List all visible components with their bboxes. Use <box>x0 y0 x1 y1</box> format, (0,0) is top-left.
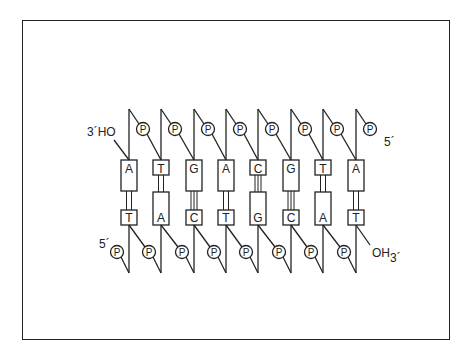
phosphate-label: P <box>146 247 153 258</box>
phosphate-label: P <box>302 124 309 135</box>
bottom-backbone-diagonal <box>153 257 161 273</box>
bottom-3prime-tail <box>356 225 370 245</box>
bottom-backbone-diagonal <box>283 257 291 273</box>
top-3prime-tail <box>114 140 129 160</box>
top-backbone-link <box>212 134 226 160</box>
bottom-backbone-link <box>291 225 307 247</box>
bottom-base-letter: A <box>157 211 165 225</box>
bottom-backbone-diagonal <box>186 257 194 273</box>
phosphate-label: P <box>114 247 121 258</box>
bottom-right-oh-label: OH <box>372 246 390 260</box>
phosphate-label: P <box>205 124 212 135</box>
top-base-letter: A <box>222 162 230 176</box>
top-base-letter: A <box>125 162 133 176</box>
top-backbone-diagonal <box>194 109 204 124</box>
phosphate-label: P <box>179 247 186 258</box>
top-backbone-link <box>309 134 323 160</box>
phosphate-label: P <box>269 124 276 135</box>
bottom-backbone-link <box>194 225 210 247</box>
bottom-backbone-link <box>323 225 340 247</box>
phosphate-label: P <box>237 124 244 135</box>
bottom-backbone-diagonal <box>250 257 258 273</box>
bottom-backbone-diagonal <box>121 257 129 273</box>
bottom-base-letter: T <box>352 211 360 225</box>
top-backbone-diagonal <box>356 109 366 124</box>
bottom-backbone-diagonal <box>218 257 226 273</box>
top-backbone-diagonal <box>323 109 333 124</box>
top-base-letter: C <box>254 162 263 176</box>
phosphate-label: P <box>172 124 179 135</box>
bottom-base-letter: A <box>319 211 327 225</box>
phosphate-label: P <box>211 247 218 258</box>
bottom-base-letter: T <box>222 211 230 225</box>
phosphate-label: P <box>334 124 341 135</box>
bottom-right-3prime-label: 3´ <box>390 251 401 265</box>
top-backbone-diagonal <box>258 109 268 124</box>
top-right-5prime-label: 5´ <box>384 135 395 149</box>
top-backbone-diagonal <box>291 109 301 124</box>
phosphate-label: P <box>341 247 348 258</box>
phosphate-label: P <box>276 247 283 258</box>
bottom-base-letter: C <box>190 211 199 225</box>
phosphate-label: P <box>243 247 250 258</box>
bottom-base-letter: T <box>125 211 133 225</box>
top-backbone-diagonal <box>226 109 236 124</box>
top-left-3prime-label: 3´HO <box>87 125 116 139</box>
top-base-letter: T <box>157 162 165 176</box>
phosphate-label: P <box>308 247 315 258</box>
bottom-left-5prime-label: 5´ <box>99 237 110 251</box>
top-backbone-link <box>276 134 291 160</box>
bottom-backbone-link <box>129 225 145 247</box>
bottom-backbone-link <box>258 225 275 247</box>
top-base-letter: G <box>189 162 198 176</box>
bottom-backbone-link <box>226 225 242 247</box>
top-backbone-link <box>147 134 161 160</box>
dna-diagram: 3´HO 5´ 5´ OH 3´ ATPPTAPPGCPPATPPCGPPGCP… <box>0 0 471 362</box>
top-base-letter: T <box>319 162 327 176</box>
bottom-backbone-diagonal <box>315 257 323 273</box>
bottom-base-letter: G <box>253 211 262 225</box>
bottom-backbone-link <box>161 225 178 247</box>
phosphate-label: P <box>140 124 147 135</box>
phosphate-label: P <box>367 124 374 135</box>
top-backbone-link <box>179 134 194 160</box>
top-base-letter: A <box>352 162 360 176</box>
top-backbone-diagonal <box>129 109 139 124</box>
top-backbone-diagonal <box>161 109 171 124</box>
bottom-base-letter: C <box>287 211 296 225</box>
top-base-letter: G <box>286 162 295 176</box>
bottom-backbone-diagonal <box>348 257 356 273</box>
top-backbone-link <box>341 134 356 160</box>
top-backbone-link <box>244 134 258 160</box>
